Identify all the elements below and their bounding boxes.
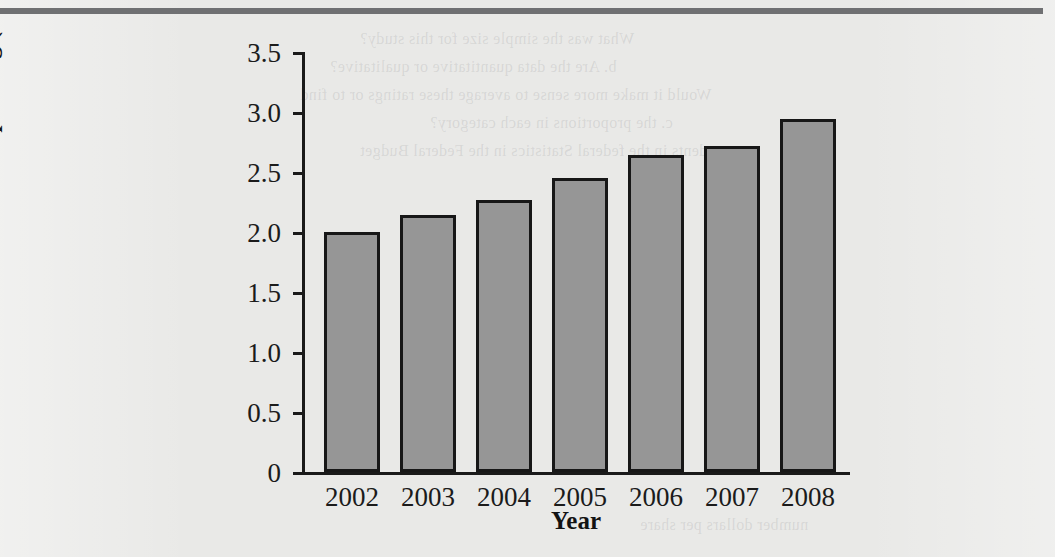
y-axis-tick-label: 3.5: [247, 40, 281, 67]
bar-rect: [780, 119, 836, 472]
bar-rect: [628, 155, 684, 472]
y-axis-tick-label: 2.0: [247, 220, 281, 247]
y-axis-tick-label: 1.5: [247, 280, 281, 307]
plot-area: 00.51.01.52.02.53.03.5 20022003200420052…: [302, 52, 850, 472]
bar-rect: [552, 178, 608, 472]
y-axis-tick-label: 3.0: [247, 100, 281, 127]
bar-rect: [400, 215, 456, 472]
bar-rect: [324, 232, 380, 472]
x-axis-tick-label: 2008: [763, 484, 853, 511]
y-axis-tick-label: 0.5: [247, 400, 281, 427]
y-axis-tick-label: 1.0: [247, 340, 281, 367]
x-axis-line: [302, 472, 850, 475]
y-axis-title: Federal Spending ($ trillions): [0, 0, 4, 288]
bar-chart: Federal Spending ($ trillions) Year 00.5…: [0, 0, 1055, 557]
bar-series: [302, 52, 850, 472]
y-axis-tick-label: 2.5: [247, 160, 281, 187]
y-axis-tick: 0: [293, 472, 305, 475]
bar-rect: [704, 146, 760, 472]
bar-rect: [476, 200, 532, 472]
y-axis-tick-label: 0: [268, 460, 282, 487]
